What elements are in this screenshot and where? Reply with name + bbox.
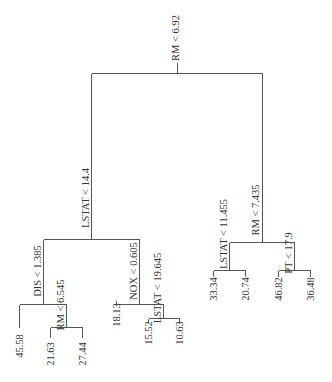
split-label: NOX < 0.605 xyxy=(128,242,139,300)
regression-tree-diagram: RM < 6.92LSTAT < 14.4RM < 7.435DIS < 1.3… xyxy=(0,0,332,382)
leaf-value: 20.74 xyxy=(240,276,251,300)
split-label: LSTAT < 14.4 xyxy=(80,167,91,228)
split-label: LSTAT < 19.645 xyxy=(152,253,163,324)
leaf-value: 27.44 xyxy=(77,341,88,365)
split-label: DIS < 1.385 xyxy=(32,245,43,297)
split-label: LSTAT < 11.455 xyxy=(218,199,229,269)
leaf-value: 36.48 xyxy=(305,277,316,301)
split-label: RM < 6.92 xyxy=(170,15,181,61)
leaf-value: 45.58 xyxy=(14,334,25,358)
split-label: RM < 7.435 xyxy=(250,184,261,235)
split-labels: RM < 6.92LSTAT < 14.4RM < 7.435DIS < 1.3… xyxy=(32,15,294,331)
leaf-value: 10.63 xyxy=(174,321,185,345)
leaf-value: 33.34 xyxy=(208,276,219,300)
split-label: RM < 6.545 xyxy=(55,279,66,330)
split-label: PT < 17.9 xyxy=(283,232,294,274)
leaf-value: 18.13 xyxy=(111,303,122,327)
leaf-value: 21.63 xyxy=(45,342,56,366)
leaf-value: 15.52 xyxy=(143,321,154,345)
leaf-value: 46.82 xyxy=(273,277,284,301)
